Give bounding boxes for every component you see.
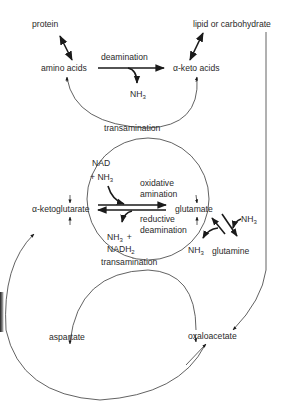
- node-glutamate: glutamate: [175, 204, 213, 214]
- process-transamination-top: transamination: [104, 123, 161, 133]
- node-lipid-or-carbohydrate: lipid or carbohydrate: [193, 19, 271, 29]
- process-transamination-bottom: transamination: [101, 257, 158, 267]
- process-oxidative: oxidative: [140, 178, 174, 188]
- lipid-to-oxaloacetate-line: [233, 32, 266, 330]
- cofactor-plus-nh3: + NH3: [90, 172, 114, 183]
- nad-in-arrow: [108, 186, 124, 204]
- cofactor-nad: NAD: [92, 158, 110, 168]
- cofactor-nadh2: NADH2: [107, 244, 135, 255]
- node-glutamine: glutamine: [212, 246, 249, 256]
- node-amino-acids: amino acids: [41, 63, 87, 73]
- process-reductive: reductive: [140, 214, 175, 224]
- cofactor-nh3-deamination: NH3: [130, 89, 146, 100]
- lipid-keto-acids-arrow: [190, 33, 203, 60]
- transamination-top-arc: [67, 78, 197, 128]
- node-alpha-ketoglutarate: α-ketoglutarate: [32, 204, 90, 214]
- nh3-release-arrow: [128, 68, 137, 83]
- protein-amino-acids-arrow: [60, 36, 72, 60]
- node-aspartate: aspartate: [49, 332, 85, 342]
- nadh2-out-arrow: [122, 211, 132, 222]
- process-reductive-deamination: deamination: [140, 225, 187, 235]
- glutamate-cycle-circle: [87, 138, 209, 260]
- process-amination: amination: [140, 189, 177, 199]
- transamination-bottom-arc: [70, 270, 196, 342]
- node-protein: protein: [32, 19, 58, 29]
- cofactor-nh3-glutamine-in: NH3: [241, 214, 257, 225]
- cofactor-nh3-glutamine-out: NH3: [188, 245, 204, 256]
- process-deamination: deamination: [101, 52, 148, 62]
- cofactor-nh3-plus: NH3+: [107, 232, 132, 243]
- nh3-out-arrow: [203, 228, 218, 238]
- node-alpha-keto-acids: α-keto acids: [173, 63, 220, 73]
- amino-acid-metabolism-diagram: protein lipid or carbohydrate amino acid…: [0, 0, 290, 418]
- glutamine-to-glutamate-arrow: [212, 218, 225, 234]
- node-oxaloacetate: oxaloacetate: [188, 331, 237, 341]
- nh3-in-arrow: [233, 219, 241, 228]
